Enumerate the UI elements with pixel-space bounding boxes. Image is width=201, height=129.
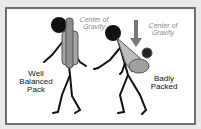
badly-packed-label: Badly Packed: [146, 75, 182, 91]
left-cog-label: Center of Gravity: [75, 16, 113, 30]
well-balanced-label: Well Balanced Pack: [16, 70, 56, 94]
right-cog-label: Center of Gravity: [143, 22, 183, 36]
down-arrow-icon: [130, 20, 142, 47]
